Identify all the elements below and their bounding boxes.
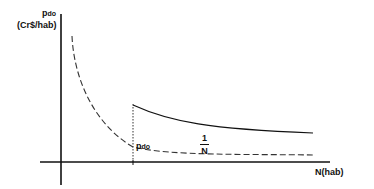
x-axis-label: N(hab) [315,167,344,177]
fraction-numerator: 1 [202,133,207,143]
y-axis-symbol: pdo [42,8,56,19]
solid-curve-1-over-n [133,105,313,133]
fraction-denominator: N [201,146,208,156]
fraction-bar [200,144,209,145]
y-axis-unit: (Cr$/hab) [17,20,57,30]
curve-label-pdo: pdo [136,141,150,152]
dashed-curve-pdo [72,36,313,155]
curve-label-1-over-n: 1 N [200,133,209,156]
